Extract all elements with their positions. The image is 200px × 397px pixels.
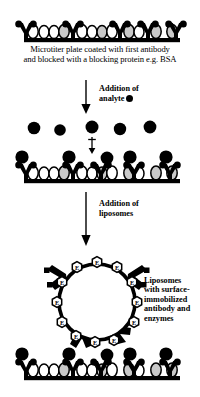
free-analyte-group — [28, 121, 157, 136]
arrow-2-label-line2: liposomes — [99, 209, 139, 219]
panel-1-antibody-coated-plate — [0, 8, 200, 44]
panel-2-graphic — [0, 118, 200, 186]
bound-analyte — [62, 347, 75, 360]
panel-1-caption-line1: Microtiter plate coated with first antib… — [0, 44, 200, 54]
liposome-description-line1: Liposomes — [144, 276, 200, 285]
plate-base — [24, 376, 180, 380]
bound-analyte — [15, 150, 28, 163]
arrow-1-label-line2: analyte — [99, 94, 124, 103]
arrow-2-label-line1: Addition of — [99, 199, 139, 209]
free-analyte — [144, 121, 157, 134]
arrow-1-label-line1: Addition of — [99, 84, 139, 94]
liposome-description-line3: immobilized — [144, 295, 200, 304]
plate-base — [24, 179, 180, 183]
panel-1-caption: Microtiter plate coated with first antib… — [0, 44, 200, 64]
liposome-vesicle — [59, 264, 135, 340]
bound-analyte — [159, 150, 172, 163]
arrow-1-label: Addition of analyte — [99, 84, 139, 103]
free-analyte — [54, 124, 66, 136]
plate-base — [24, 38, 180, 42]
panel-1-graphic — [0, 8, 200, 44]
bound-analyte — [101, 349, 114, 362]
free-analyte — [86, 121, 99, 134]
binding-arrow-icon — [88, 137, 96, 154]
bound-analyte — [123, 150, 136, 163]
free-analyte — [114, 123, 126, 135]
liposome-description-line5: enzymes — [144, 314, 200, 323]
arrow-1-label-line2-wrap: analyte — [99, 94, 139, 104]
panel-1-caption-line2: and blocked with a blocking protein e.g.… — [0, 54, 200, 64]
bound-analyte — [159, 347, 172, 360]
liposome-description-label: Liposomes with surface- immobilized anti… — [144, 276, 200, 323]
bound-analyte — [15, 347, 28, 360]
free-analyte — [28, 122, 41, 135]
analyte-circle-icon — [126, 95, 133, 102]
liposome-description-line4: antibody and — [144, 304, 200, 313]
liposome-description-line2: with surface- — [144, 285, 200, 294]
panel-2-analyte-bound-plate — [0, 118, 200, 186]
arrow-2-label: Addition of liposomes — [99, 199, 139, 218]
bound-analyte — [101, 152, 114, 165]
bound-analyte — [123, 347, 136, 360]
bound-analyte — [62, 150, 75, 163]
